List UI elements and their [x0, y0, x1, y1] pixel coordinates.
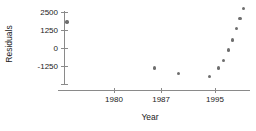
y-axis-tick	[61, 84, 68, 85]
y-axis-tick	[61, 48, 68, 49]
x-axis-tick-label: 1995	[199, 95, 231, 104]
x-axis-tick	[114, 88, 115, 93]
data-point	[65, 20, 68, 23]
data-point	[153, 66, 156, 69]
x-axis-title: Year	[130, 112, 170, 122]
data-point	[208, 75, 211, 78]
data-point	[227, 48, 230, 51]
y-axis-title: Residuals	[4, 22, 14, 66]
x-axis-tick	[161, 88, 162, 93]
x-axis-tick-label: 1987	[145, 95, 177, 104]
y-axis-tick	[61, 30, 68, 31]
data-point	[235, 27, 238, 30]
data-point	[242, 7, 245, 10]
data-point	[231, 38, 234, 41]
y-axis-tick-label: 1250	[26, 26, 58, 35]
x-axis-tick	[215, 88, 216, 93]
data-point	[177, 72, 180, 75]
data-point	[222, 59, 225, 62]
y-axis-tick-label: 2500	[26, 8, 58, 17]
x-axis-line	[58, 90, 250, 91]
y-axis-tick-label: -1250	[26, 62, 58, 71]
x-axis-tick-label: 1980	[98, 95, 130, 104]
y-axis-tick	[61, 66, 68, 67]
data-point	[217, 66, 220, 69]
y-axis-tick	[61, 12, 68, 13]
data-point	[238, 17, 241, 20]
residuals-scatter-chart: Residuals Year 250012500-125019801987199…	[0, 0, 256, 131]
y-axis-tick-label: 0	[26, 44, 58, 53]
